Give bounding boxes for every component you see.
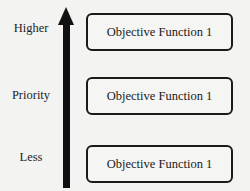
priority-arrow-shaft	[63, 22, 70, 188]
objective-box-label: Objective Function 1	[107, 25, 213, 40]
label-priority: Priority	[0, 88, 62, 103]
objective-box-1: Objective Function 1	[86, 13, 233, 51]
label-less: Less	[0, 150, 62, 165]
objective-box-label: Objective Function 1	[107, 89, 213, 104]
objective-box-label: Objective Function 1	[107, 157, 213, 172]
objective-box-2: Objective Function 1	[86, 77, 233, 115]
objective-box-3: Objective Function 1	[86, 145, 233, 183]
label-higher: Higher	[0, 21, 62, 36]
